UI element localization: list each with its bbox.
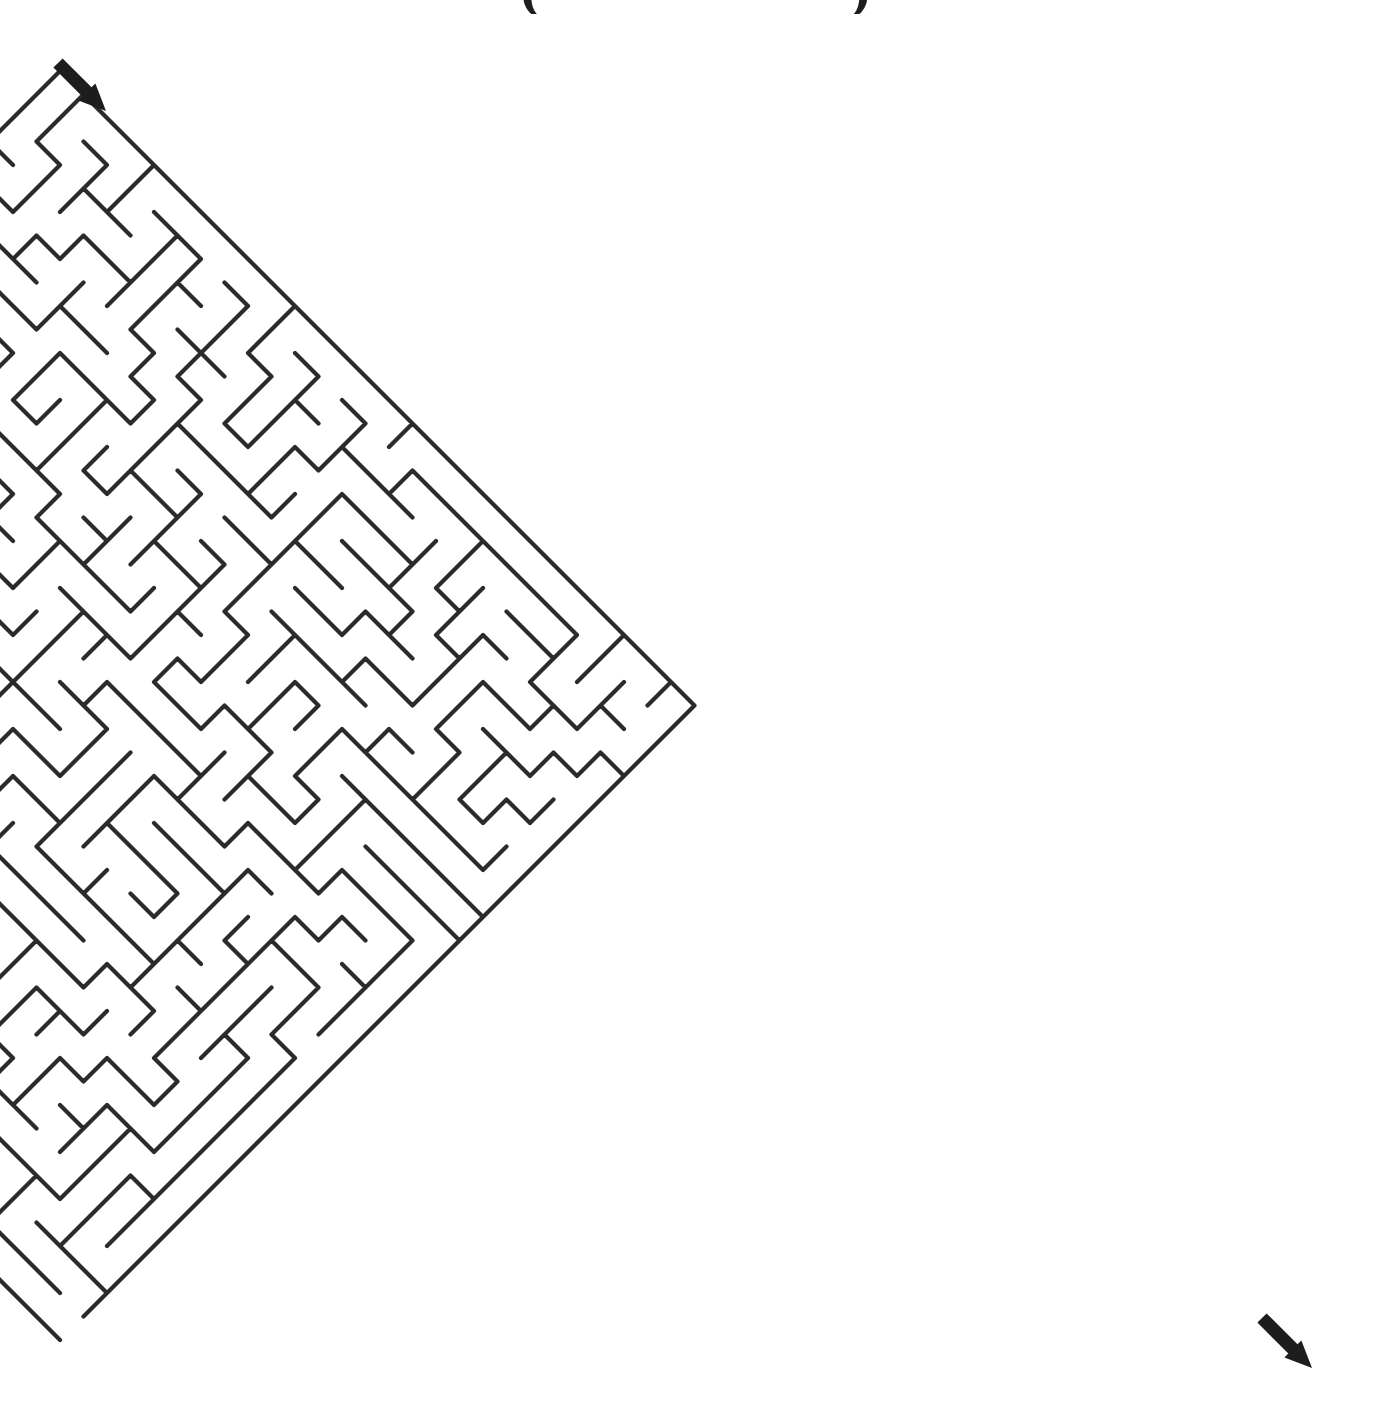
maze-background <box>0 0 1385 1426</box>
maze-page: ( ) <box>0 0 1385 1426</box>
maze-figure <box>0 0 1385 1426</box>
